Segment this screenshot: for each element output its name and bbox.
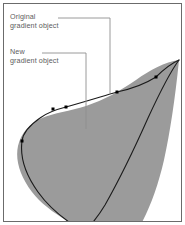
callout-new-gradient-object: New gradient object [10, 47, 59, 66]
anchor-point [155, 76, 158, 79]
original-gradient-object-shape [17, 60, 179, 225]
anchor-point [52, 108, 55, 111]
leader-line-original [58, 18, 110, 93]
callout-original-line2: gradient object [10, 21, 59, 30]
anchor-point [21, 140, 24, 143]
callout-original-gradient-object: Original gradient object [10, 12, 59, 31]
callout-new-line1: New [10, 47, 59, 56]
anchor-point [65, 106, 68, 109]
callout-original-line1: Original [10, 12, 59, 21]
illustration-figure: Original gradient object New gradient ob… [0, 0, 185, 225]
anchor-point [116, 91, 119, 94]
callout-new-line2: gradient object [10, 56, 59, 65]
artwork-canvas [0, 0, 185, 225]
